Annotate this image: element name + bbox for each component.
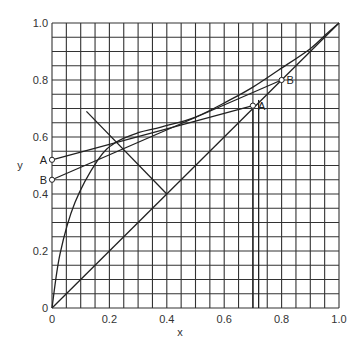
x-tick-label: 0.4 xyxy=(159,313,174,325)
y-tick-label: 0.4 xyxy=(33,188,48,200)
x-tick-label: 0.2 xyxy=(102,313,117,325)
point-marker xyxy=(250,103,255,108)
y-tick-label: 0.6 xyxy=(33,131,48,143)
x-tick-label: 0 xyxy=(49,313,55,325)
point-label-a: A xyxy=(40,154,48,166)
q-line-line xyxy=(86,111,166,194)
point-label-b: B xyxy=(40,174,47,186)
y-tick-label: 0.8 xyxy=(33,74,48,86)
point-marker xyxy=(279,77,284,82)
x-axis-label: x xyxy=(177,326,183,338)
y-tick-label: 1.0 xyxy=(33,17,48,29)
y-tick-label: 0.2 xyxy=(33,245,48,257)
point-label-b: B xyxy=(287,74,294,86)
y-axis-label: y xyxy=(17,159,23,171)
x-tick-label: 0.8 xyxy=(274,313,289,325)
x-tick-label: 1.0 xyxy=(331,313,346,325)
point-marker xyxy=(49,157,54,162)
mccabe-thiele-chart: ABAB 00.20.40.60.81.000.20.40.60.81.0 x … xyxy=(0,0,362,354)
x-tick-label: 0.6 xyxy=(217,313,232,325)
point-label-a: A xyxy=(258,100,266,112)
point-marker xyxy=(49,177,54,182)
y-tick-label: 0 xyxy=(42,302,48,314)
